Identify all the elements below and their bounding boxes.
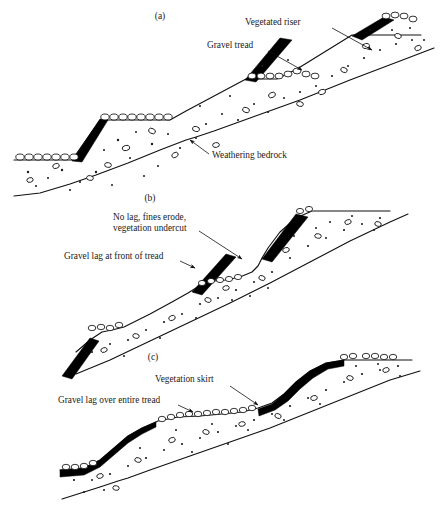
leader-gravel-lag-entire-tread bbox=[178, 405, 193, 412]
leader-gravel-lag-front-of-tread bbox=[180, 261, 195, 268]
panel-b-deposit-body bbox=[76, 212, 400, 372]
panel-c-deposit-body bbox=[60, 360, 420, 500]
panel-a-deposit-body bbox=[14, 34, 432, 196]
annotation-no-lag-line1: No lag, fines erode, bbox=[113, 212, 186, 222]
leader-weathering-bedrock bbox=[190, 140, 209, 154]
annotation-no-lag-line2: vegetation undercut bbox=[113, 223, 187, 233]
figure-terrace-degradation: (a) Vegetated riser Gravel tread Weather… bbox=[0, 0, 445, 509]
annotation-gravel-lag-front-of-tread: Gravel lag at front of tread bbox=[64, 251, 164, 261]
leader-no-lag-fines-erode bbox=[199, 231, 242, 259]
annotation-weathering-bedrock: Weathering bedrock bbox=[212, 150, 287, 160]
panel-b: (b) No lag, fines erode, vegetation unde… bbox=[62, 193, 408, 379]
annotation-gravel-tread: Gravel tread bbox=[207, 40, 254, 50]
annotation-no-lag-fines-erode: No lag, fines erode, vegetation undercut bbox=[113, 212, 188, 233]
figure-canvas: (a) Vegetated riser Gravel tread Weather… bbox=[0, 0, 445, 509]
panel-b-label: (b) bbox=[144, 193, 155, 204]
panel-c-label: (c) bbox=[148, 352, 159, 363]
panel-c: (c) Vegetation skirt Gravel lag over ent… bbox=[58, 352, 420, 500]
panel-a-label: (a) bbox=[155, 11, 166, 22]
leader-vegetation-skirt bbox=[230, 386, 258, 405]
annotation-vegetated-riser: Vegetated riser bbox=[245, 17, 301, 27]
annotation-vegetation-skirt: Vegetation skirt bbox=[155, 374, 214, 384]
panel-a: (a) Vegetated riser Gravel tread Weather… bbox=[14, 11, 434, 196]
annotation-gravel-lag-entire-tread: Gravel lag over entire tread bbox=[58, 395, 161, 405]
